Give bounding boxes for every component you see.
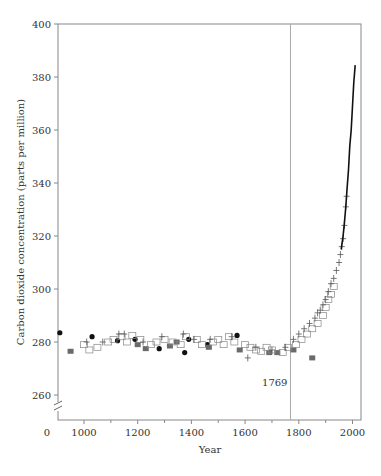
- square-marker: [167, 343, 173, 348]
- square-marker: [266, 350, 272, 355]
- plot-frame: [58, 24, 361, 420]
- plus-marker: [84, 339, 90, 346]
- series-instrumental-record: [341, 65, 355, 249]
- plus-marker: [336, 259, 342, 266]
- axis-break-marks: [54, 401, 62, 411]
- open-square-marker: [242, 342, 249, 348]
- square-marker: [309, 355, 315, 360]
- x-tick-label: 0: [44, 427, 50, 438]
- co2-chart: 260280300320340360380400 010001200140016…: [0, 0, 381, 476]
- open-square-marker: [153, 339, 160, 345]
- plus-marker: [333, 267, 339, 274]
- x-tick-label: 1000: [71, 427, 96, 438]
- circle-marker: [182, 350, 187, 355]
- square-marker: [237, 347, 243, 352]
- x-tick-label: 1600: [232, 427, 257, 438]
- x-tick-label: 1200: [125, 427, 150, 438]
- y-tick-label: 280: [32, 337, 51, 348]
- circle-marker: [57, 330, 62, 335]
- annotation-label: 1769: [262, 377, 287, 388]
- x-axis: 0100012001400160018002000: [44, 420, 365, 438]
- x-tick-label: 2000: [340, 427, 365, 438]
- series-filled-circles: [57, 330, 239, 355]
- plus-marker: [337, 251, 343, 258]
- y-axis: 260280300320340360380400: [32, 19, 58, 401]
- circle-marker: [234, 333, 239, 338]
- y-tick-label: 320: [32, 231, 51, 242]
- plus-marker: [328, 280, 334, 287]
- y-axis-title: Carbon dioxide concentration (parts per …: [15, 99, 26, 345]
- y-tick-label: 380: [32, 72, 51, 83]
- circle-marker: [89, 334, 94, 339]
- y-tick-label: 400: [32, 19, 51, 30]
- x-tick-label: 1400: [179, 427, 204, 438]
- y-tick-label: 360: [32, 125, 51, 136]
- plus-marker: [207, 336, 213, 343]
- square-marker: [135, 342, 141, 347]
- y-tick-label: 260: [32, 390, 51, 401]
- annotation-layer: 1769: [262, 24, 290, 420]
- circle-marker: [186, 337, 191, 342]
- plus-marker: [245, 354, 251, 361]
- plus-marker: [331, 275, 337, 282]
- plus-marker: [191, 336, 197, 343]
- circle-marker: [157, 346, 162, 351]
- open-square-marker: [94, 344, 101, 350]
- plus-marker: [140, 339, 146, 346]
- data-points: [57, 65, 355, 361]
- trend-line: [341, 65, 355, 249]
- square-marker: [68, 349, 74, 354]
- x-axis-title: Year: [198, 444, 222, 455]
- x-tick-label: 1800: [286, 427, 311, 438]
- y-tick-label: 340: [32, 178, 51, 189]
- open-square-marker: [258, 348, 265, 354]
- square-marker: [174, 340, 180, 345]
- y-tick-label: 300: [32, 284, 51, 295]
- plus-marker: [121, 331, 127, 338]
- plus-marker: [180, 331, 186, 338]
- square-marker: [206, 345, 212, 350]
